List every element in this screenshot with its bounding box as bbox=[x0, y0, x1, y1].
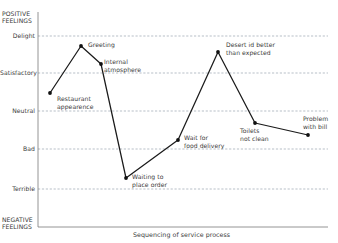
data-point-marker[interactable] bbox=[253, 121, 257, 125]
emotion-trend-line bbox=[50, 46, 308, 178]
point-label: Toilets not clean bbox=[240, 127, 269, 142]
point-label: Greeting bbox=[88, 41, 115, 49]
y-tick-label-neutral: Neutral bbox=[0, 107, 35, 114]
y-axis-top-label: POSITIVE FEELINGS bbox=[2, 10, 36, 25]
data-point-marker[interactable] bbox=[124, 176, 128, 180]
point-label: Wait for food delivery bbox=[184, 134, 225, 149]
data-point-marker[interactable] bbox=[176, 138, 180, 142]
y-tick-label-bad: Bad bbox=[0, 145, 35, 152]
point-label: Desert id better than expected bbox=[226, 41, 275, 56]
customer-journey-emotion-chart: POSITIVE FEELINGS NEGATIVE FEELINGS Deli… bbox=[0, 0, 338, 243]
y-axis-bottom-label: NEGATIVE FEELINGS bbox=[2, 216, 36, 231]
data-line-group bbox=[50, 46, 308, 178]
point-label: Internal atmosphere bbox=[104, 58, 141, 73]
point-label: Waiting to place order bbox=[132, 173, 167, 188]
gridlines-group bbox=[38, 36, 328, 189]
data-point-marker[interactable] bbox=[99, 62, 103, 66]
x-axis-title: Sequencing of service process bbox=[133, 231, 230, 238]
data-point-marker[interactable] bbox=[216, 50, 220, 54]
point-label: Problem with bill bbox=[303, 115, 328, 130]
y-tick-label-satisfactory: Satisfactory bbox=[0, 69, 35, 76]
data-point-marker[interactable] bbox=[306, 133, 310, 137]
chart-canvas bbox=[0, 0, 338, 243]
data-markers-group bbox=[48, 44, 310, 180]
y-tick-label-delight: Delight bbox=[0, 32, 35, 39]
point-label: Restaurant appearence bbox=[57, 95, 94, 110]
data-point-marker[interactable] bbox=[79, 44, 83, 48]
y-tick-label-terrible: Terrible bbox=[0, 185, 35, 192]
data-point-marker[interactable] bbox=[48, 91, 52, 95]
